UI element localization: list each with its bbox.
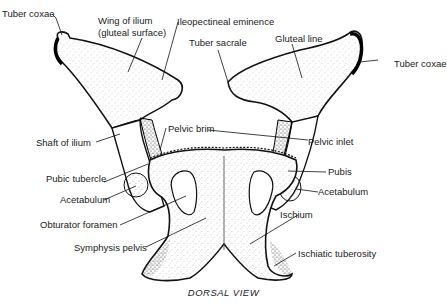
label-pubis: Pubis [328, 166, 352, 177]
label-pubic-tubercle: Pubic tubercle [46, 173, 106, 184]
label-tuber-sacrale: Tuber sacrale [189, 37, 247, 48]
pelvic-floor [142, 147, 297, 280]
label-gluteal-surface: (gluteal surface) [98, 27, 166, 38]
right-ilium-wing [228, 31, 362, 122]
label-ileopectineal-eminence: Ileopectineal eminence [177, 16, 274, 27]
label-gluteal-line: Gluteal line [275, 33, 323, 44]
label-obturator-foramen: Obturator foramen [40, 219, 118, 230]
label-pelvic-inlet: Pelvic inlet [308, 136, 353, 147]
label-tuber-coxae-right: Tuber coxae [394, 58, 446, 69]
label-symphysis-pelvis: Symphysis pelvis [74, 242, 147, 253]
label-pelvic-brim: Pelvic brim [168, 123, 214, 134]
label-tuber-coxae-left: Tuber coxae [2, 8, 54, 19]
label-acetabulum-left: Acetabulum [60, 194, 110, 205]
label-acetabulum-right: Acetabulum [318, 186, 368, 197]
label-ischium: Ischium [280, 209, 313, 220]
left-ilium-wing [55, 32, 182, 128]
view-caption: DORSAL VIEW [0, 287, 447, 298]
label-shaft-of-ilium: Shaft of ilium [36, 137, 91, 148]
label-wing-of-ilium: Wing of ilium [98, 15, 152, 26]
label-ischiatic-tuberosity: Ischiatic tuberosity [298, 248, 376, 259]
